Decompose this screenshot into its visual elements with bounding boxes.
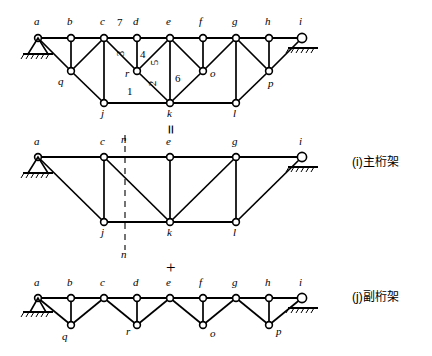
main-node-label-g: g [232,136,238,147]
main-web-members [38,157,302,222]
member-number-6: 6 [175,73,181,84]
main-node-label-c: c [100,136,105,147]
node-label-r: r [125,68,129,79]
main-node-label-i: i [299,136,302,147]
sec-node-label-c: c [100,277,105,288]
sec-node-label-h: h [265,277,271,288]
sec-node-label-o: o [210,328,216,339]
node-label-l: l [233,108,236,119]
sec-node-label-d: d [133,277,139,288]
node-label-i: i [299,16,302,27]
sec-node-label-f: f [199,277,202,288]
member-number-4: 4 [140,49,146,60]
sec-node-label-q: q [62,331,68,342]
sec-node-label-a: a [34,277,40,288]
node-label-g: g [232,16,238,27]
member-number-7: 7 [117,17,123,28]
plus-operator: + [166,259,176,276]
sec-node-label-g: g [232,277,238,288]
member-number-3: 3 [115,51,126,57]
main-node-label-e: e [166,136,171,147]
section-label-n-top: n [121,134,127,145]
main-node-label-k: k [167,227,172,238]
node-label-q: q [58,76,64,87]
support-roller-i-secondary [286,308,318,313]
compound-truss-panel [21,33,318,106]
node-label-b: b [67,16,73,27]
sec-node-label-b: b [67,277,73,288]
caption-secondary-truss: (j)副桁架 [352,287,399,304]
main-node-label-a: a [34,136,40,147]
node-label-e: e [166,16,171,27]
node-label-o: o [210,68,216,79]
caption-main-truss: (i)主桁架 [352,152,399,169]
node-label-k: k [167,108,172,119]
node-label-a: a [34,16,40,27]
equals-operator: = [162,125,179,135]
node-label-d: d [133,16,139,27]
member-number-5: 5 [149,60,160,66]
main-node-label-l: l [233,227,236,238]
node-label-h: h [265,16,271,27]
member-number-2: 2 [147,81,158,87]
sec-node-label-e: e [166,277,171,288]
support-pinned-a-secondary [21,298,53,317]
main-node-label-j: j [101,227,104,238]
member-number-1: 1 [127,86,133,97]
section-label-n-bottom: n [121,249,127,260]
support-roller-i-main [286,167,318,172]
support-roller-i-compound [286,48,318,53]
compound-web-members [38,38,302,103]
sec-node-label-p: p [276,326,282,337]
node-label-p: p [268,78,274,89]
sec-node-label-r: r [126,326,130,337]
node-label-c: c [100,16,105,27]
node-label-j: j [101,108,104,119]
node-label-f: f [199,16,202,27]
secondary-truss-panel [21,293,318,328]
sec-node-label-i: i [299,277,302,288]
